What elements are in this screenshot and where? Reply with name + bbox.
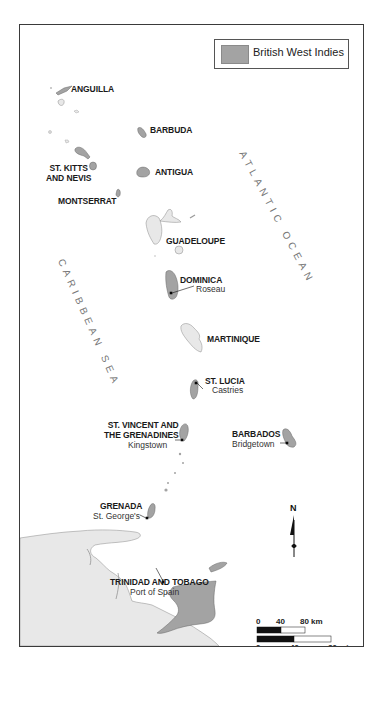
scale-bars xyxy=(257,627,331,642)
martinique-shape xyxy=(181,324,202,352)
compass-north-label: N xyxy=(290,503,297,513)
label-barbuda: BARBUDA xyxy=(150,125,192,135)
scale-km-40: 40 xyxy=(276,617,285,626)
label-guadeloupe: GUADELOUPE xyxy=(166,236,225,246)
label-trinidad: TRINIDAD AND TOBAGO xyxy=(110,577,209,587)
dominica-shape xyxy=(166,271,178,300)
capital-roseau: Roseau xyxy=(196,284,225,294)
label-montserrat: MONTSERRAT xyxy=(58,196,116,206)
label-anguilla: ANGUILLA xyxy=(71,84,114,94)
scale-mi-0: 0 xyxy=(256,643,260,647)
map-frame: British West Indies ANGUILLA BARBUDA ST.… xyxy=(19,24,364,647)
legend-label: British West Indies xyxy=(253,46,344,58)
map-canvas xyxy=(20,25,363,646)
label-martinique: MARTINIQUE xyxy=(207,334,260,344)
label-antigua: ANTIGUA xyxy=(155,167,193,177)
label-st-vincent-line2: THE GRENADINES xyxy=(104,430,179,440)
montserrat-shape xyxy=(116,189,120,196)
capital-kingstown: Kingstown xyxy=(128,440,167,450)
barbuda-shape xyxy=(138,127,146,137)
anguilla-shape xyxy=(49,86,80,143)
capital-bridgetown: Bridgetown xyxy=(232,439,275,449)
label-grenada: GRENADA xyxy=(100,501,142,511)
guadeloupe-shape xyxy=(146,209,195,256)
label-st-kitts: ST. KITTSAND NEVIS xyxy=(46,163,91,183)
tobago-shape xyxy=(209,562,227,572)
grenada-shape xyxy=(148,504,156,519)
capital-castries: Castries xyxy=(212,385,243,395)
capital-st-georges: St. George's xyxy=(93,511,140,521)
legend: British West Indies xyxy=(214,39,349,69)
antigua-shape xyxy=(137,167,150,177)
capital-port-of-spain: Port of Spain xyxy=(130,587,179,597)
scale-km-0: 0 xyxy=(256,617,260,626)
label-st-kitts-line1: ST. KITTS xyxy=(50,163,88,173)
compass-icon xyxy=(290,515,297,557)
scale-mi-40: 40 xyxy=(290,643,299,647)
label-st-vincent: ST. VINCENT ANDTHE GRENADINES xyxy=(104,420,179,440)
barbados-shape xyxy=(283,429,296,447)
label-st-kitts-line2: AND NEVIS xyxy=(46,173,91,183)
label-barbados: BARBADOS xyxy=(232,429,280,439)
legend-swatch xyxy=(221,45,249,64)
scale-km-80: 80 km xyxy=(300,617,323,626)
label-st-vincent-line1: ST. VINCENT AND xyxy=(108,420,179,430)
scale-mi-80: 80 mi xyxy=(328,643,348,647)
